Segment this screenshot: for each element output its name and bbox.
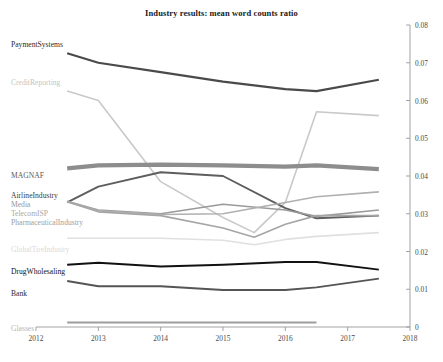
y-tick-label: 0.05: [415, 134, 428, 143]
series-label-magnaf: MAGNAF: [11, 172, 44, 180]
x-tick-label: 2018: [403, 334, 418, 343]
series-label-paymentsystems: PaymentSystems: [11, 41, 63, 49]
x-tick-label: 2012: [29, 334, 44, 343]
y-tick-label: 0.03: [415, 209, 428, 218]
series-label-pharmaceuticalindustry: PharmaceuticalIndustry: [11, 219, 83, 227]
series-line-pharmaceuticalindustry: [67, 202, 379, 237]
series-label-creditreporting: CreditReporting: [11, 79, 60, 87]
x-tick-label: 2014: [153, 334, 168, 343]
series-label-glasses: Glasses: [11, 325, 34, 333]
x-tick-label: 2015: [216, 334, 231, 343]
series-label-media: Media: [11, 201, 30, 209]
y-tick-label: 0.07: [415, 58, 428, 67]
series-label-airlineindustry: AirlineIndustry: [11, 192, 58, 200]
series-label-globaltireindustry: GlobalTireIndustry: [11, 246, 69, 254]
series-label-drugwholesaling: DrugWholesaling: [11, 268, 65, 276]
series-line-drugwholesaling: [67, 262, 379, 270]
line-chart-plot: [0, 0, 443, 362]
series-line-paymentsystems: [67, 53, 379, 91]
series-line-globaltireindustry: [67, 233, 379, 245]
series-label-bank: Bank: [11, 290, 27, 298]
x-tick-label: 2013: [91, 334, 106, 343]
series-line-bank: [67, 279, 379, 290]
y-tick-label: 0.04: [415, 172, 428, 181]
y-tick-label: 0: [415, 323, 419, 332]
series-layer: [67, 53, 379, 322]
series-label-telecomisp: TelecomISP: [11, 210, 48, 218]
x-tick-label: 2016: [278, 334, 293, 343]
y-tick-label: 0.02: [415, 247, 428, 256]
chart-root: Industry results: mean word counts ratio…: [0, 0, 443, 362]
y-tick-label: 0.01: [415, 285, 428, 294]
y-tick-label: 0.08: [415, 21, 428, 30]
series-line-telecomisp: [67, 192, 379, 215]
x-tick-label: 2017: [340, 334, 355, 343]
y-tick-label: 0.06: [415, 96, 428, 105]
series-line-magnaf: [67, 165, 379, 170]
